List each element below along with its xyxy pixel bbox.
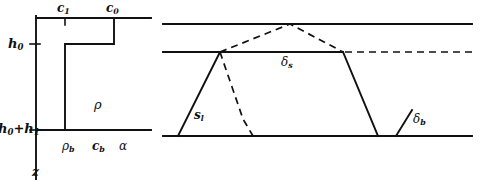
delta-b-angle-tick — [396, 110, 412, 136]
label-h0: h0 — [8, 37, 23, 51]
label-delta-s: δs — [281, 56, 293, 70]
label-c-b: cb — [92, 140, 105, 154]
label-c1: c1 — [57, 2, 70, 16]
label-z-axis: z — [32, 166, 39, 178]
figure-drawing-canvas — [0, 0, 484, 185]
label-rho-b: ρb — [62, 140, 75, 154]
concentration-step-profile — [65, 18, 114, 130]
label-c0: c0 — [106, 2, 119, 16]
label-rho: ρ — [94, 98, 102, 111]
dashed-upper-trace — [220, 24, 343, 52]
label-delta-b: δb — [413, 113, 426, 127]
label-alpha: α — [119, 140, 127, 152]
figure-container: c1 c0 h0 h0+h1 ρ ρb cb α z δs δb sl — [0, 0, 484, 185]
label-s-l: sl — [194, 109, 204, 123]
left-panel-group — [30, 16, 151, 179]
label-h0-plus-h1: h0+h1 — [0, 122, 40, 136]
dashed-lower-trace — [220, 52, 253, 136]
solid-slab-trace — [178, 52, 378, 136]
